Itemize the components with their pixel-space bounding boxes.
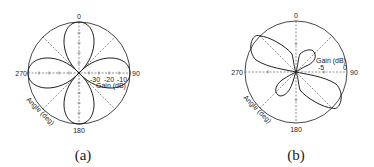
angle-label-0: 0 [294,12,298,19]
caption-b: (b) [287,147,305,164]
gain-tick-2: 0 [343,64,347,71]
caption-a: (a) [75,147,92,164]
gain-axis-label: Gain (dB) [316,57,346,65]
angle-label-270: 270 [231,69,243,76]
gain-tick-1: -5 [318,64,324,71]
angle-label-180: 180 [290,126,302,133]
figure-canvas: 0 90 180 270 -30 -20 -10 Gain (dB) Angle… [0,0,374,167]
angle-label-180: 180 [73,127,85,134]
angle-label-270: 270 [15,70,27,77]
angle-axis-label: Angle (deg) [242,94,273,125]
angle-label-0: 0 [77,13,81,20]
gain-axis-label: Gain (dB) [96,82,126,90]
angle-label-90: 90 [350,69,358,76]
angle-label-90: 90 [132,70,140,77]
